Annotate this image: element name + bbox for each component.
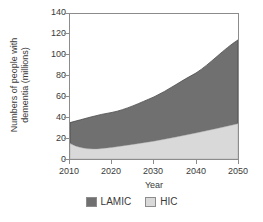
legend-swatch-lamic	[86, 197, 97, 207]
y-tick-100: 100	[38, 50, 66, 59]
x-tickmark-2040	[196, 160, 197, 164]
y-tick-0: 0	[38, 155, 66, 164]
y-axis-tick-labels: 0 20 40 60 80 100 120 140	[36, 0, 66, 222]
legend-item-lamic: LAMIC	[86, 197, 132, 207]
legend-item-hic: HIC	[145, 197, 177, 207]
x-tickmark-2050	[238, 160, 239, 164]
y-tick-40: 40	[38, 113, 66, 122]
x-tick-2010: 2010	[49, 166, 89, 176]
x-tickmark-2020	[111, 160, 112, 164]
x-tick-2020: 2020	[91, 166, 131, 176]
y-tick-120: 120	[38, 29, 66, 38]
x-tick-2040: 2040	[176, 166, 216, 176]
chart-legend: LAMIC HIC	[0, 197, 263, 207]
x-axis-label: Year	[69, 180, 239, 190]
legend-label-hic: HIC	[160, 197, 177, 207]
y-tick-80: 80	[38, 71, 66, 80]
x-tick-2050: 2050	[218, 166, 258, 176]
y-tick-60: 60	[38, 92, 66, 101]
legend-label-lamic: LAMIC	[101, 197, 132, 207]
x-tickmark-2010	[69, 160, 70, 164]
y-axis-label: Numbers of people with dementia (million…	[0, 0, 40, 170]
x-tickmark-2030	[153, 160, 154, 164]
x-tick-2030: 2030	[133, 166, 173, 176]
plot-area	[69, 13, 239, 160]
chart-figure: Numbers of people with dementia (million…	[0, 0, 263, 222]
legend-swatch-hic	[145, 197, 156, 207]
y-tick-140: 140	[38, 8, 66, 17]
stacked-area-svg	[70, 14, 238, 159]
y-axis-label-line-1: Numbers of people with	[9, 38, 20, 133]
y-axis-label-line-2: dementia (millions)	[20, 38, 31, 133]
y-tick-20: 20	[38, 134, 66, 143]
